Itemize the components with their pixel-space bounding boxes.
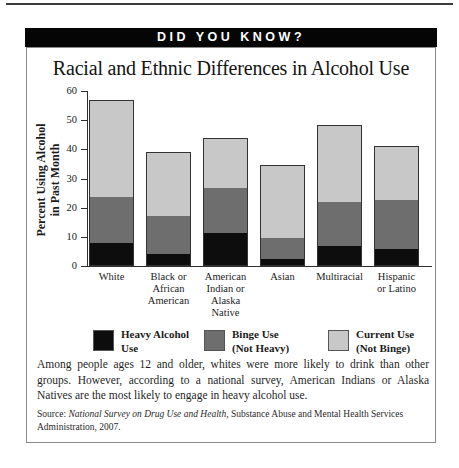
bar-segment — [375, 249, 418, 265]
legend-swatch — [328, 330, 349, 351]
bar-segment — [318, 126, 361, 202]
bar-multiracial — [317, 125, 362, 266]
legend-swatch — [93, 330, 114, 351]
y-tick-mark — [81, 149, 87, 150]
bar-segment — [375, 147, 418, 200]
y-tick-label: 40 — [49, 143, 77, 154]
bar-segment — [318, 202, 361, 246]
source-prefix: Source: — [37, 409, 68, 419]
y-tick-label: 10 — [49, 231, 77, 242]
y-tick-label: 0 — [49, 260, 77, 271]
y-tick-label: 60 — [49, 85, 77, 96]
x-axis-line — [81, 266, 432, 267]
top-horizontal-rule — [6, 3, 453, 5]
legend-label: Binge Use (Not Heavy) — [232, 328, 342, 355]
y-tick-mark — [81, 237, 87, 238]
y-tick-mark — [81, 179, 87, 180]
bar-segment — [90, 243, 133, 265]
bar-segment — [318, 246, 361, 265]
y-tick-mark — [81, 91, 87, 92]
bar-segment — [90, 101, 133, 197]
bar-segment — [147, 254, 190, 265]
bar-white — [89, 100, 134, 266]
caption-text: Among people ages 12 and older, whites w… — [37, 357, 429, 404]
bar-asian — [260, 165, 305, 266]
bar-segment — [147, 153, 190, 216]
bar-segment — [261, 166, 304, 238]
y-axis-line — [87, 91, 88, 267]
infographic-box: Racial and Ethnic Differences in Alcohol… — [26, 47, 436, 443]
source-text: Source: National Survey on Drug Use and … — [37, 408, 433, 434]
bar-segment — [261, 238, 304, 260]
y-tick-label: 30 — [49, 173, 77, 184]
y-tick-label: 20 — [49, 202, 77, 213]
legend-label: Current Use (Not Binge) — [356, 328, 459, 355]
y-tick-mark — [81, 266, 87, 267]
legend-swatch — [204, 330, 225, 351]
bar-segment — [90, 197, 133, 243]
source-title-italic: National Survey on Drug Use and Health, — [68, 409, 228, 419]
bar-segment — [204, 233, 247, 265]
bar-segment — [204, 188, 247, 234]
bar-black-or — [146, 152, 191, 266]
bar-american — [203, 138, 248, 266]
bar-hispanic — [374, 146, 419, 266]
bar-segment — [375, 200, 418, 249]
bar-segment — [204, 139, 247, 188]
y-tick-mark — [81, 120, 87, 121]
did-you-know-banner: DID YOU KNOW? — [25, 28, 437, 47]
y-tick-label: 50 — [49, 114, 77, 125]
y-tick-mark — [81, 208, 87, 209]
bar-segment — [261, 259, 304, 265]
bar-segment — [147, 216, 190, 253]
x-axis-category-label: Hispanic or Latino — [352, 271, 442, 295]
